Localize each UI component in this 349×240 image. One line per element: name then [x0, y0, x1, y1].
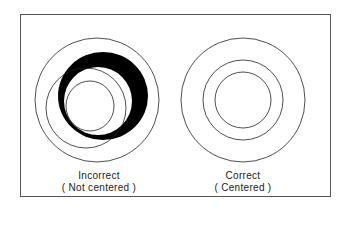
correct-target	[181, 38, 305, 162]
incorrect-title: Incorrect	[39, 170, 159, 182]
incorrect-subtitle: ( Not centered )	[39, 182, 159, 194]
correct-label: Correct ( Centered )	[183, 170, 303, 194]
inner-ring	[215, 72, 271, 128]
outer-ring	[181, 38, 305, 162]
incorrect-label: Incorrect ( Not centered )	[39, 170, 159, 194]
correct-title: Correct	[183, 170, 303, 182]
correct-subtitle: ( Centered )	[183, 182, 303, 194]
incorrect-target	[35, 38, 159, 162]
